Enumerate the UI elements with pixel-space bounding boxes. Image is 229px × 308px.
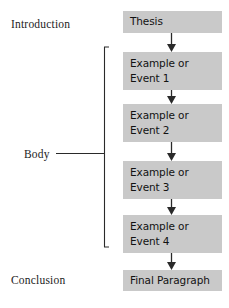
- section-label-introduction: Introduction: [11, 19, 70, 31]
- flow-node-final-paragraph: Final Paragraph: [123, 270, 222, 291]
- flow-node-example-1-line-1: Example or: [130, 56, 222, 71]
- section-label-conclusion: Conclusion: [11, 275, 65, 287]
- body-bracket: [96, 46, 110, 248]
- flow-node-example-1-line-2: Event 1: [130, 71, 222, 86]
- flowchart-diagram: Introduction Body Conclusion Thesis Exam…: [0, 0, 229, 308]
- arrow-example-3-to-example-4: [167, 199, 176, 215]
- flow-node-example-3-line-2: Event 3: [130, 180, 222, 195]
- flow-node-example-4-line-1: Example or: [130, 219, 222, 234]
- arrow-example-4-to-final-paragraph: [167, 253, 176, 270]
- flow-node-example-3-line-1: Example or: [130, 165, 222, 180]
- flow-node-thesis: Thesis: [123, 11, 222, 33]
- flow-node-thesis-line-1: Thesis: [130, 14, 222, 29]
- flow-node-example-2-line-2: Event 2: [130, 123, 222, 138]
- flow-node-example-4: Example or Event 4: [123, 215, 222, 253]
- section-label-body: Body: [24, 149, 50, 161]
- flow-node-example-3: Example or Event 3: [123, 161, 222, 199]
- flow-node-example-4-line-2: Event 4: [130, 234, 222, 249]
- flow-node-final-paragraph-line-1: Final Paragraph: [130, 273, 222, 288]
- arrow-example-2-to-example-3: [167, 142, 176, 161]
- arrow-thesis-to-example-1: [167, 33, 176, 52]
- flow-node-example-2: Example or Event 2: [123, 104, 222, 142]
- arrow-example-1-to-example-2: [167, 90, 176, 104]
- flow-node-example-2-line-1: Example or: [130, 108, 222, 123]
- flow-node-example-1: Example or Event 1: [123, 52, 222, 90]
